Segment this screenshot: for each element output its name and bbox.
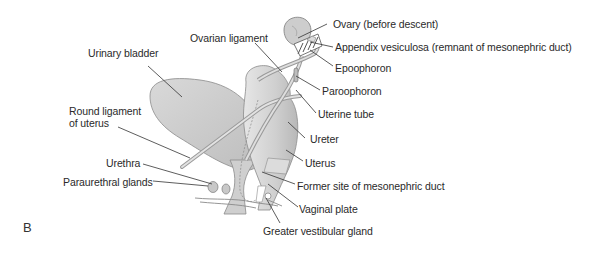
label-urethra: Urethra bbox=[106, 157, 140, 169]
label-ureter: Ureter bbox=[310, 133, 339, 145]
label-epoophoron: Epoophoron bbox=[335, 62, 391, 74]
label-uterine-tube: Uterine tube bbox=[318, 108, 374, 120]
label-paraurethral-glands: Paraurethral glands bbox=[63, 176, 153, 188]
panel-label: B bbox=[23, 220, 32, 235]
label-vaginal-plate: Vaginal plate bbox=[299, 203, 358, 215]
label-round-ligament-line2: of uterus bbox=[69, 117, 109, 129]
label-former-site-mesonephric-duct: Former site of mesonephric duct bbox=[297, 180, 444, 192]
label-paroophoron: Paroophoron bbox=[322, 85, 382, 97]
label-ovary: Ovary (before descent) bbox=[333, 18, 438, 30]
label-urinary-bladder: Urinary bladder bbox=[88, 47, 158, 59]
paroophoron-shape bbox=[294, 68, 298, 82]
label-appendix-vesiculosa: Appendix vesiculosa (remnant of mesoneph… bbox=[335, 41, 572, 53]
label-round-ligament-line1: Round ligament bbox=[69, 105, 141, 117]
label-uterus: Uterus bbox=[305, 157, 335, 169]
label-greater-vestibular-gland: Greater vestibular gland bbox=[263, 225, 373, 237]
label-ovarian-ligament: Ovarian ligament bbox=[190, 32, 268, 44]
